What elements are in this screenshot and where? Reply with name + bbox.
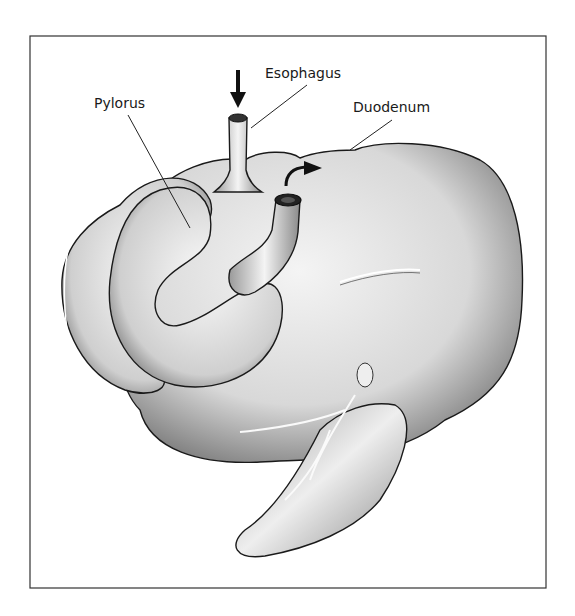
esophagus-label: Esophagus — [265, 65, 341, 81]
duodenum-label: Duodenum — [353, 99, 430, 115]
anatomy-figure: Esophagus Pylorus Duodenum — [0, 0, 575, 616]
gland — [357, 363, 373, 387]
esophagus-opening — [229, 114, 247, 122]
pylorus-label: Pylorus — [94, 95, 145, 111]
